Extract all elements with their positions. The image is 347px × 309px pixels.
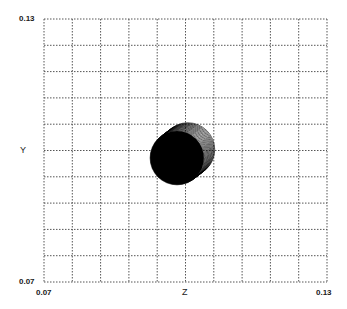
y-min-tick: 0.07 — [19, 277, 35, 286]
x-min-tick: 0.07 — [36, 288, 52, 297]
plot-area — [0, 0, 347, 309]
y-axis-label: Y — [20, 145, 26, 155]
y-max-tick: 0.13 — [19, 14, 35, 23]
filled-disc — [150, 131, 204, 185]
x-axis-label: Z — [182, 287, 188, 297]
x-max-tick: 0.13 — [316, 288, 332, 297]
